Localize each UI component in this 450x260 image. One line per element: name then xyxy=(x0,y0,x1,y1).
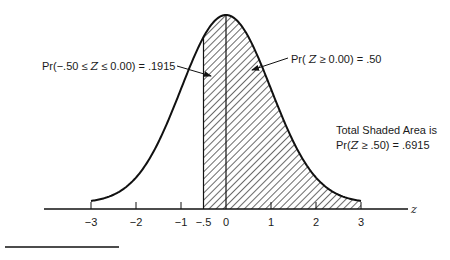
annotation-left: Pr(−.50 ≤ Z ≤ 0.00) = .1915 xyxy=(42,60,175,73)
x-axis-label: z xyxy=(410,203,417,216)
tick-label: 3 xyxy=(358,216,364,228)
annotation-right: Pr( Z ≥ 0.00) = .50 xyxy=(291,53,381,66)
normal-distribution-chart: −3−2−1−.50123 z Pr(−.50 ≤ Z ≤ 0.00) = .1… xyxy=(0,0,450,260)
annotation-total-line1: Total Shaded Area is xyxy=(336,124,437,136)
annotation-total-line2: Pr(Z ≥ .50) = .6915 xyxy=(336,139,430,152)
tick-label: −1 xyxy=(175,216,188,228)
tick-label: 0 xyxy=(223,216,229,228)
tick-label: 2 xyxy=(313,216,319,228)
tick-label: −3 xyxy=(85,216,98,228)
tick-label: 1 xyxy=(268,216,274,228)
tick-label: −2 xyxy=(130,216,143,228)
tick-label: −.5 xyxy=(196,216,212,228)
